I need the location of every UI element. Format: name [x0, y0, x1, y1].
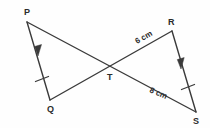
vertex-label-s: S — [193, 116, 199, 126]
geometry-canvas: P Q T R S 6 cm 8 cm — [0, 0, 210, 128]
measure-label-ts: 8 cm — [148, 86, 168, 101]
tick-marker-pq-icon — [36, 77, 49, 82]
vertex-label-r: R — [168, 17, 175, 27]
vertex-label-p: P — [24, 7, 30, 17]
geometry-figure: P Q T R S 6 cm 8 cm — [0, 0, 210, 128]
vertex-label-q: Q — [47, 104, 54, 114]
segment-pq — [27, 22, 50, 100]
segment-rs — [172, 31, 196, 112]
vertex-label-t: T — [107, 72, 113, 82]
